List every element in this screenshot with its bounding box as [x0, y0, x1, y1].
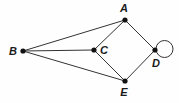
vertex-label-a: A [119, 2, 128, 14]
graph-self-loop-d [156, 41, 173, 58]
loops-layer [156, 41, 173, 58]
vertex-label-b: B [9, 45, 17, 57]
graph-vertex-e [122, 78, 127, 83]
graph-vertex-d [152, 47, 157, 52]
vertex-label-d: D [152, 57, 160, 69]
graph-vertex-a [122, 17, 127, 22]
vertex-label-e: E [120, 86, 128, 98]
graph-edge-d-e [125, 50, 155, 81]
graph-svg: ABCDE [0, 0, 179, 103]
graph-edge-a-d [125, 20, 155, 50]
graph-edge-b-c [23, 50, 94, 51]
graph-vertex-b [20, 48, 25, 53]
graph-vertex-c [91, 47, 96, 52]
graph-diagram-canvas: ABCDE [0, 0, 179, 103]
vertex-label-c: C [100, 44, 109, 56]
edges-layer [23, 20, 155, 81]
